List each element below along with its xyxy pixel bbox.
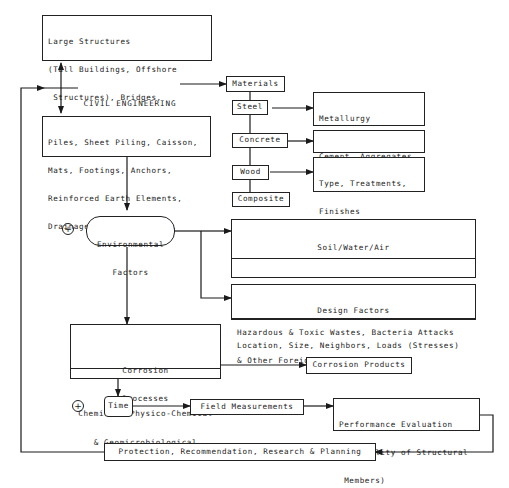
soil-water-air-title: Soil/Water/Air xyxy=(232,239,475,259)
material-wood-box: Wood xyxy=(232,165,269,180)
time-plus-icon: + xyxy=(72,400,84,412)
performance-line: Performance Evaluation xyxy=(339,420,474,429)
foundations-box: Piles, Sheet Piling, Caisson, Mats, Foot… xyxy=(42,116,211,157)
materials-box: Materials xyxy=(226,76,285,92)
large-structures-line: Large Structures xyxy=(48,37,206,46)
time-box: Time xyxy=(104,396,133,417)
design-factors-body: Location, Size, Neighbors, Loads (Stress… xyxy=(232,338,475,353)
wood-detail: Type, Treatments, xyxy=(319,179,419,188)
material-composite-box: Composite xyxy=(232,192,290,207)
concrete-details-box: Cement, Aggregates, Curing Time xyxy=(313,130,425,153)
foundations-line: Piles, Sheet Piling, Caisson, xyxy=(48,138,205,147)
foundations-line: Mats, Footings, Anchors, xyxy=(48,166,205,175)
wood-detail: Finishes xyxy=(319,207,419,216)
design-factors-box: Design Factors Location, Size, Neighbors… xyxy=(231,284,476,320)
environmental-line2: Factors xyxy=(87,268,174,277)
corrosion-products-box: Corrosion Products xyxy=(306,357,412,374)
steel-detail: Metallurgy xyxy=(319,114,419,123)
wood-details-box: Type, Treatments, Finishes Surface Condi… xyxy=(313,157,425,192)
steel-details-box: Metallurgy Surface Condition Composition xyxy=(313,92,425,126)
corrosion-title-line1: Corrosion xyxy=(71,366,220,375)
root-label-line1: CIVIL ENGINEERING xyxy=(80,99,180,108)
environmental-factors-node: Environmental Factors xyxy=(86,216,175,246)
material-steel-box: Steel xyxy=(232,100,268,115)
material-concrete-box: Concrete xyxy=(232,133,288,148)
design-factors-title: Design Factors xyxy=(232,304,475,319)
foundations-line: Reinforced Earth Elements, xyxy=(48,194,205,203)
performance-line: Members) xyxy=(339,476,474,485)
large-structures-box: Large Structures (Tall Buildings, Offsho… xyxy=(42,15,212,61)
environmental-plus-icon: + xyxy=(62,223,74,235)
corrosion-processes-title: Corrosion Processes xyxy=(71,344,220,369)
field-measurements-box: Field Measurements xyxy=(190,399,304,415)
corrosion-processes-box: Corrosion Processes Chemical, Physico-Ch… xyxy=(70,324,221,379)
environmental-line1: Environmental xyxy=(87,240,174,249)
large-structures-line: (Tall Buildings, Offshore xyxy=(48,65,206,74)
soil-water-air-box: Soil/Water/Air Soil Types, Water Types, … xyxy=(231,219,476,278)
arrow-to-design-factors xyxy=(201,231,231,298)
protection-box: Protection, Recommendation, Research & P… xyxy=(104,443,376,461)
performance-evaluation-box: Performance Evaluation (Durability of St… xyxy=(333,398,480,431)
